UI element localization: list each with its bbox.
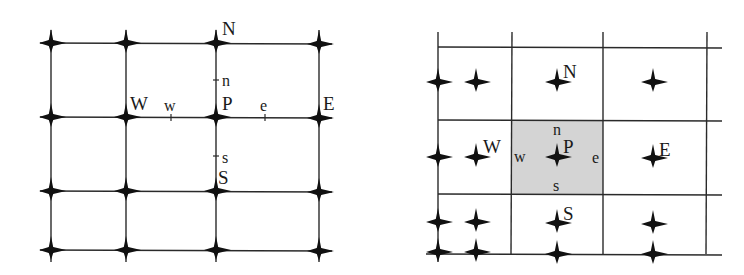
label-E: E (323, 93, 335, 114)
label-w: w (164, 97, 176, 114)
label-S: S (218, 167, 229, 188)
label-w: w (514, 148, 526, 165)
label-P: P (222, 93, 233, 114)
label-N: N (563, 61, 577, 82)
left-grid-nodes (39, 29, 334, 261)
right-grid-diagram: N W P E S n w e s (426, 32, 722, 264)
left-grid-lines (40, 30, 332, 262)
label-W: W (483, 136, 501, 157)
diagram-canvas: N W P E S n w e s (0, 0, 744, 275)
label-N: N (222, 18, 236, 39)
label-e: e (260, 97, 267, 114)
label-E: E (659, 139, 671, 160)
label-P: P (563, 136, 574, 157)
label-S: S (563, 203, 574, 224)
label-s: s (553, 177, 559, 194)
label-s: s (222, 149, 228, 166)
label-n: n (222, 72, 230, 89)
label-n: n (553, 121, 561, 138)
label-W: W (130, 93, 148, 114)
left-grid-diagram: N W P E S n w e s (39, 18, 335, 262)
label-e: e (592, 149, 599, 166)
